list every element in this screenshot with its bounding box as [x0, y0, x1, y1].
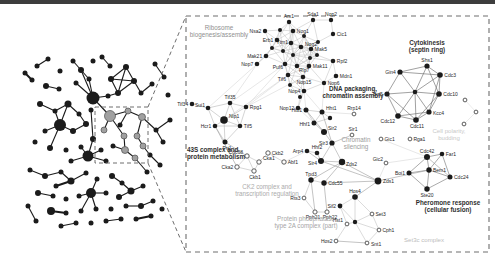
node-nsa2 [263, 29, 267, 33]
overview-node [37, 101, 43, 107]
overview-node [77, 112, 82, 117]
overview-node [162, 75, 167, 80]
node-cdc24 [448, 175, 453, 180]
node-nop6 [322, 81, 326, 85]
overview-node [118, 123, 123, 128]
cluster-edge-chromatin-silencing [332, 143, 342, 162]
overview-node [124, 204, 129, 209]
overview-node [84, 171, 89, 176]
node-label-cic1: Cic1 [337, 31, 347, 37]
overview-node [30, 78, 35, 83]
node-label-nog1: Nog1 [297, 28, 309, 34]
node-dot [278, 28, 282, 32]
node-tpd3 [308, 177, 313, 182]
node-cdc68 [245, 154, 249, 158]
overview-node [139, 91, 144, 96]
node-hht1 [320, 110, 325, 115]
overview-node [71, 59, 76, 64]
node-hos2 [334, 239, 338, 243]
node-ckb2 [266, 151, 270, 155]
43s-complex-label: 43S complex andprotein metabolism [187, 146, 245, 161]
overview-node [23, 71, 28, 76]
node-label-nop15: Nop15 [297, 79, 312, 85]
overview-node [77, 194, 82, 199]
node-dot [328, 116, 332, 120]
node-kcc4 [426, 109, 431, 114]
cluster-edge-cytokinesis-septin [387, 94, 398, 116]
overview-node [89, 108, 94, 113]
node-nog1 [291, 29, 296, 34]
node-label-zds2: Zds2 [346, 161, 357, 167]
overview-node [83, 121, 89, 127]
overview-node [78, 67, 84, 73]
node-sui1 [206, 106, 211, 111]
set3c-label: Set3c complex [404, 236, 444, 243]
node-label-nop4: Nop4 [288, 88, 300, 94]
overview-node-highlighted [134, 133, 140, 139]
overview-node [57, 87, 62, 92]
overview-node [33, 140, 38, 145]
chromatin-silencing-label-line: silencing [344, 143, 369, 151]
ribosome-biogenesis-label: Ribosomebiogenesis/assembly [190, 24, 249, 39]
overview-node [150, 82, 155, 87]
node-rpg1 [244, 105, 249, 110]
node-tif34 [190, 102, 195, 107]
overview-node [54, 184, 59, 189]
node-snt1 [365, 241, 369, 245]
overview-node [74, 221, 79, 226]
cluster-edge-cytokinesis-septin [415, 92, 429, 112]
ribosome-biogenesis-label-line: biogenesis/assembly [190, 31, 249, 39]
overview-node-highlighted [101, 127, 107, 133]
overview-node [54, 119, 66, 131]
overview-node-highlighted [125, 108, 131, 114]
cytokinesis-label-line: (septin ring) [409, 46, 445, 54]
cluster-edge-set3c-complex [336, 224, 347, 241]
node-label-gic2: Gic2 [373, 156, 384, 162]
node-label-nip1: Nip1 [229, 113, 240, 119]
node-bni5 [384, 91, 389, 96]
node-label-ytm1: Ytm1 [276, 39, 288, 45]
cluster-edge-ribosome-biogenesis [318, 34, 333, 42]
overview-node [47, 145, 53, 151]
node-tif5 [238, 124, 243, 129]
cluster-edge-cytokinesis-septin [398, 112, 429, 116]
node-sir2 [321, 129, 327, 135]
node-label-boi1: Boi1 [395, 170, 405, 176]
node-boi1 [407, 171, 412, 176]
dna-packaging-label: DNA packaging,chromatin assembly [323, 85, 384, 100]
node-label-shs1: Shs1 [421, 57, 433, 63]
cluster-edge-cytokinesis-septin [398, 92, 415, 116]
node-cic1 [331, 32, 335, 36]
cluster-edge-pheromone-response [409, 173, 427, 189]
node-hhf1 [312, 121, 317, 126]
overview-node-highlighted [105, 111, 116, 122]
overview-node [87, 77, 92, 82]
overview-node [51, 194, 56, 199]
cluster-pheromone-response: Cdc42Far1Bem1Boi1Cdc24Ste20 [395, 148, 469, 198]
43s-complex-label-line: protein metabolism [187, 153, 245, 161]
overview-node [47, 207, 55, 215]
node-label-htb1: Htb1 [291, 107, 302, 113]
overview-node [166, 93, 171, 98]
figure-svg: Arx1Sda1Nop2Nsa2Nog1Cic1Erb1Ytm1Nog2Mak5… [0, 0, 495, 269]
cluster-edge-cytokinesis-septin [387, 94, 416, 120]
node-label-arx1: Arx1 [284, 13, 295, 19]
overview-node [59, 170, 64, 175]
node-label-far1: Far1 [446, 151, 457, 157]
node-label-tif5: Tif5 [244, 123, 252, 129]
node-nop4 [302, 89, 307, 94]
overview-node [111, 144, 116, 149]
node-label-cdc10: Cdc10 [443, 91, 458, 97]
overview-node [149, 214, 154, 219]
overview-node [79, 145, 84, 150]
cluster-edge-ribosome-biogenesis [266, 56, 285, 64]
overview-node [158, 163, 163, 168]
cluster-edge-set3c-complex [355, 214, 372, 222]
node-label-erb1: Erb1 [263, 37, 274, 43]
node-label-sir3: Sir3 [319, 140, 328, 146]
node-label-hht1: Hht1 [326, 105, 337, 111]
node-label-arp4: Arp4 [293, 148, 304, 154]
node-dot [288, 83, 292, 87]
overview-node [26, 204, 31, 209]
node-dot [281, 49, 285, 53]
